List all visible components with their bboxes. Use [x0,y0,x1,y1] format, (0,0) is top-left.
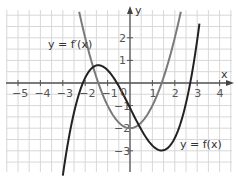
label-f: y = f(x) [180,138,222,151]
svg-text:−3: −3 [57,87,73,100]
origin-label: 0 [120,86,127,99]
svg-text:−3: −3 [114,145,130,158]
svg-text:4: 4 [217,87,224,100]
svg-text:2: 2 [172,87,179,100]
svg-text:−4: −4 [34,87,50,100]
svg-text:2: 2 [119,32,126,45]
label-f-prime: y = f′(x) [48,38,92,51]
svg-text:3: 3 [194,87,201,100]
svg-text:1: 1 [119,54,126,67]
y-axis-label: y [135,4,142,17]
function-graph: −5−4−3−2−11234−3−2−112 y = f′(x) y = f(x… [0,0,238,176]
x-axis-label: x [221,68,228,81]
svg-text:−5: −5 [12,87,28,100]
